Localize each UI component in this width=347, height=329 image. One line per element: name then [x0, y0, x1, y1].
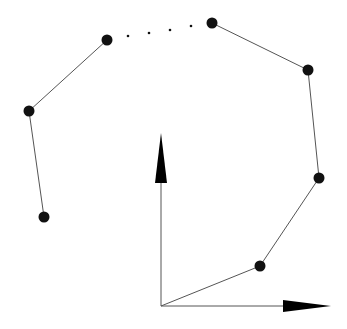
- chain-segment: [161, 266, 260, 306]
- chain-segment: [308, 70, 319, 178]
- chain-point: [314, 173, 325, 184]
- chain-segment: [212, 23, 308, 70]
- chain-segment: [29, 111, 44, 217]
- ellipsis-dot: [169, 29, 172, 32]
- ellipsis-dot: [190, 25, 193, 28]
- chain-segments: [29, 23, 319, 306]
- ellipsis-dot: [127, 35, 130, 38]
- diagram-canvas: [0, 0, 347, 329]
- chain-point: [39, 212, 50, 223]
- chain-point: [102, 35, 113, 46]
- y-axis-arrowhead-icon: [155, 133, 167, 183]
- chain-point: [303, 65, 314, 76]
- x-axis-arrowhead-icon: [283, 300, 331, 312]
- chain-point: [24, 106, 35, 117]
- chain-point: [207, 18, 218, 29]
- chain-segment: [260, 178, 319, 266]
- chain-point: [255, 261, 266, 272]
- ellipsis-dots: [127, 25, 193, 38]
- chain-segment: [29, 40, 107, 111]
- coordinate-axes: [155, 133, 331, 312]
- ellipsis-dot: [148, 32, 151, 35]
